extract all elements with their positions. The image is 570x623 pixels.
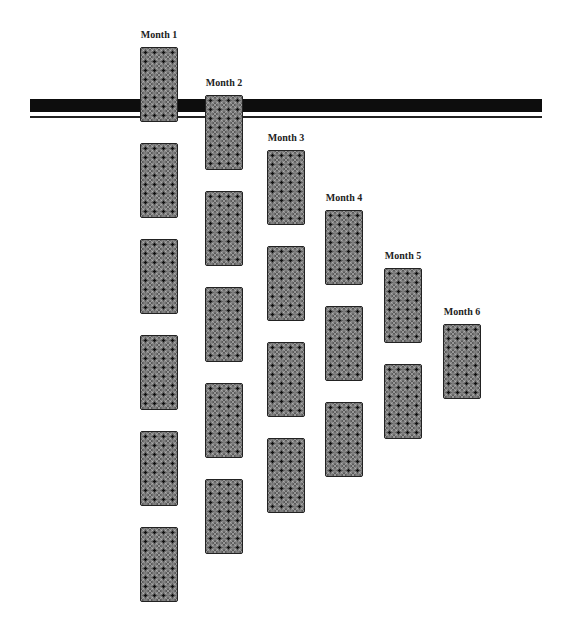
card-back: [140, 527, 178, 602]
month-label: Month 5: [373, 250, 433, 261]
card-back: [325, 210, 363, 285]
card-back: [140, 239, 178, 314]
card-back: [205, 383, 243, 458]
card-back: [443, 324, 481, 399]
month-label: Month 2: [194, 77, 254, 88]
card-back: [205, 287, 243, 362]
card-back: [205, 191, 243, 266]
card-back: [267, 438, 305, 513]
card-back: [384, 268, 422, 343]
card-back: [267, 150, 305, 225]
card-back: [384, 364, 422, 439]
card-back: [140, 143, 178, 218]
card-back: [205, 95, 243, 170]
month-label: Month 6: [432, 306, 492, 317]
card-back: [140, 431, 178, 506]
card-back: [325, 402, 363, 477]
horizontal-line: [30, 116, 542, 118]
month-label: Month 3: [256, 132, 316, 143]
card-back: [267, 342, 305, 417]
month-label: Month 4: [314, 192, 374, 203]
card-back: [325, 306, 363, 381]
card-back: [205, 479, 243, 554]
card-back: [140, 335, 178, 410]
month-label: Month 1: [129, 29, 189, 40]
card-back: [267, 246, 305, 321]
horizontal-bar: [30, 99, 542, 112]
card-back: [140, 47, 178, 122]
